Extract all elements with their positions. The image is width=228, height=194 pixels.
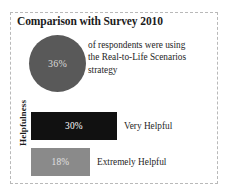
circle-stat-value: 36% <box>48 58 67 69</box>
description-line-1: of respondents were using <box>88 39 216 51</box>
circle-stat: 36% <box>29 35 86 92</box>
bar-very-helpful-value: 30% <box>65 121 83 131</box>
bar-extremely-helpful-value: 18% <box>52 157 70 167</box>
bar-extremely-helpful: 18% <box>31 148 90 176</box>
bar-extremely-helpful-caption: Extremely Helpful <box>97 157 166 167</box>
bar-very-helpful: 30% <box>31 112 117 140</box>
infographic-panel: Comparison with Survey 2010 36% of respo… <box>0 0 228 194</box>
description-line-2: the Real-to-Life Scenarios <box>88 51 216 63</box>
y-axis-label: Helpfulness <box>18 91 28 155</box>
description-line-3: strategy <box>88 64 216 76</box>
circle-stat-description: of respondents were using the Real-to-Li… <box>88 39 216 76</box>
page-title: Comparison with Survey 2010 <box>17 15 163 27</box>
bar-very-helpful-caption: Very Helpful <box>124 121 172 131</box>
